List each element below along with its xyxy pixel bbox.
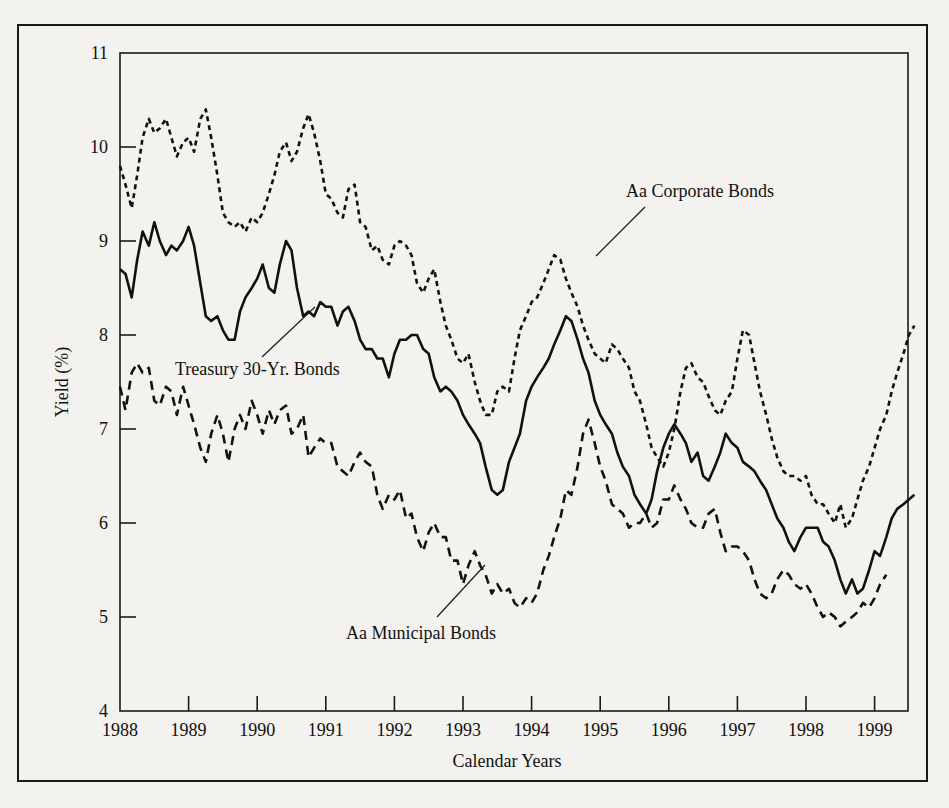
x-tick-label: 1988 (102, 720, 138, 740)
y-tick-label: 10 (90, 137, 108, 157)
yield-line-chart: 4567891011 19881989199019911992199319941… (0, 0, 949, 808)
x-axis: 1988198919901991199219931994199519961997… (102, 696, 893, 740)
x-tick-label: 1993 (445, 720, 481, 740)
y-axis-title: Yield (%) (52, 347, 73, 417)
annotation-treasury-leader-line (262, 307, 315, 357)
y-tick-label: 11 (91, 43, 108, 63)
x-tick-label: 1999 (857, 720, 893, 740)
x-tick-label: 1990 (239, 720, 275, 740)
x-tick-label: 1989 (171, 720, 207, 740)
annotation-corporate-label: Aa Corporate Bonds (626, 181, 774, 201)
y-tick-label: 4 (99, 701, 108, 721)
x-tick-label: 1992 (376, 720, 412, 740)
series-aa-municipal-bonds (120, 363, 886, 626)
x-tick-label: 1998 (788, 720, 824, 740)
series-treasury-30-yr-bonds (120, 222, 914, 593)
annotation-treasury-label: Treasury 30-Yr. Bonds (175, 359, 340, 379)
y-tick-label: 8 (99, 325, 108, 345)
y-tick-label: 7 (99, 419, 108, 439)
y-tick-label: 5 (99, 607, 108, 627)
x-tick-label: 1997 (719, 720, 755, 740)
y-tick-label: 6 (99, 513, 108, 533)
annotation-corporate-leader-line (596, 207, 645, 256)
x-tick-label: 1996 (651, 720, 687, 740)
y-tick-label: 9 (99, 231, 108, 251)
x-tick-label: 1991 (308, 720, 344, 740)
annotation-municipal-label: Aa Municipal Bonds (346, 623, 496, 643)
annotations: Aa Corporate BondsTreasury 30-Yr. BondsA… (175, 181, 774, 643)
x-axis-title: Calendar Years (453, 751, 562, 771)
x-tick-label: 1995 (582, 720, 618, 740)
plot-area-border (120, 53, 908, 711)
x-tick-label: 1994 (514, 720, 550, 740)
